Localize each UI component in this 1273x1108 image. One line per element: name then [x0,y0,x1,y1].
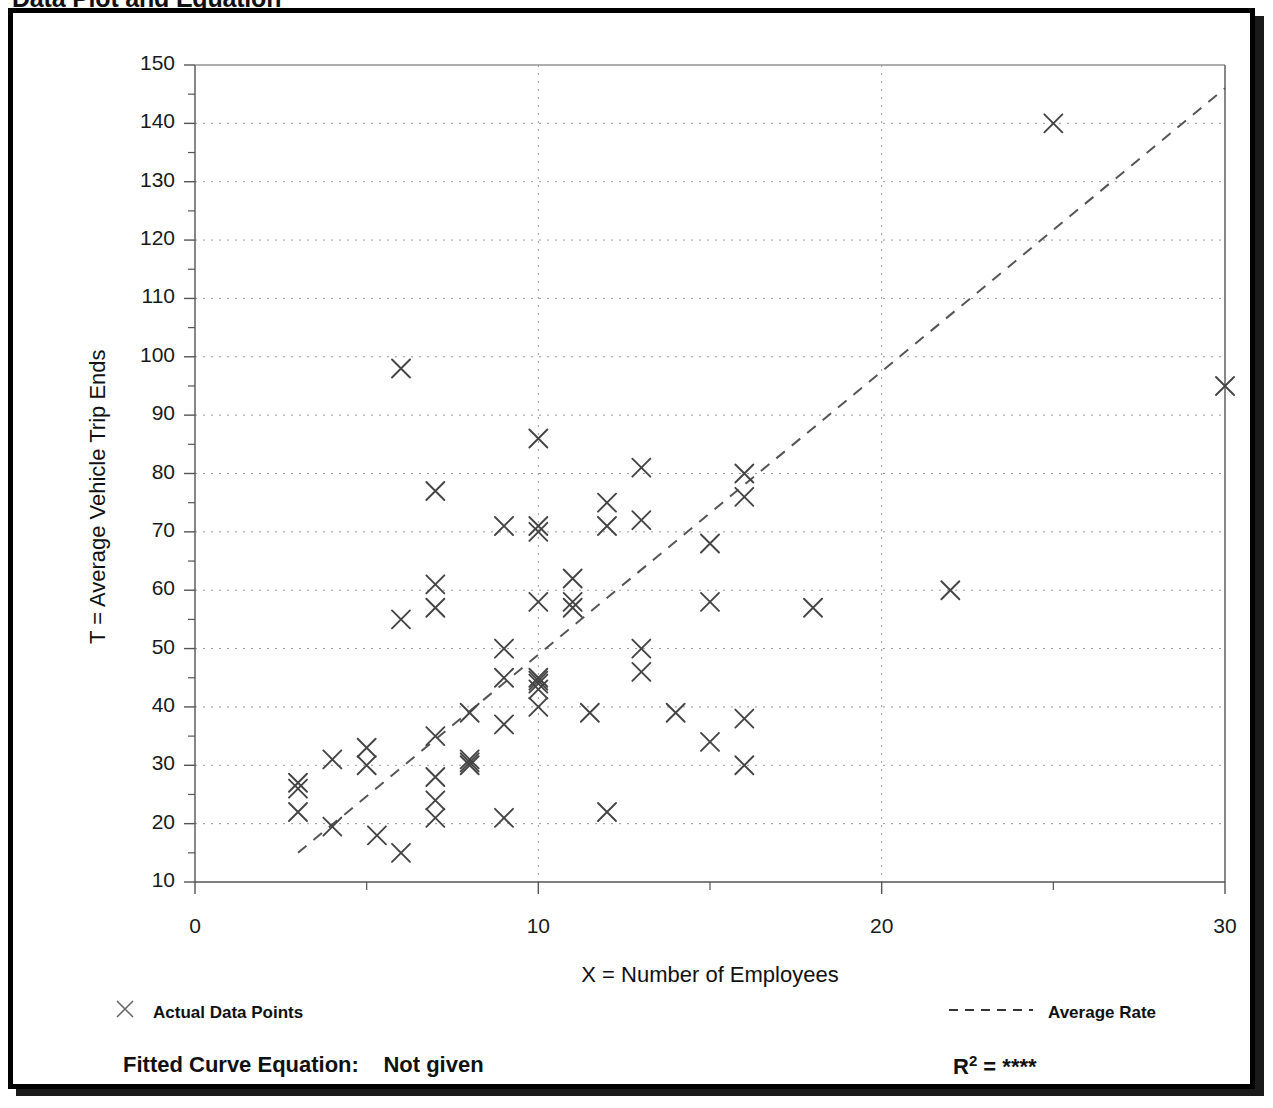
r-squared-value: R2 = **** [953,1052,1037,1080]
x-tick-label: 30 [1185,914,1265,938]
dashed-line-icon [947,997,1037,1021]
y-axis-title: T = Average Vehicle Trip Ends [85,349,111,644]
y-tick-label: 110 [105,284,175,308]
y-tick-label: 30 [105,751,175,775]
y-tick-label: 150 [105,51,175,75]
axis-lines [195,65,1225,882]
x-marker-icon [113,997,143,1021]
x-tick-label: 10 [498,914,578,938]
y-tick-label: 10 [105,868,175,892]
r-squared-label: R [953,1054,969,1079]
legend-label-average-rate: Average Rate [1048,1003,1156,1023]
y-tick-label: 50 [105,635,175,659]
x-tick-label: 0 [155,914,235,938]
y-tick-label: 80 [105,460,175,484]
y-tick-label: 140 [105,109,175,133]
x-axis-title: X = Number of Employees [195,962,1225,988]
fitted-curve-equation: Fitted Curve Equation: Not given [123,1052,484,1078]
fitted-curve-equation-value: Not given [383,1052,483,1077]
r-squared-stars: **** [1002,1054,1036,1079]
legend-label-actual-data-points: Actual Data Points [153,1003,303,1023]
y-tick-label: 60 [105,576,175,600]
figure-frame: 150140130120110100908070605040302010 010… [8,8,1255,1089]
axis-ticks [184,65,1225,894]
data-point-markers [289,114,1234,861]
x-tick-label: 20 [842,914,922,938]
y-tick-label: 40 [105,693,175,717]
y-tick-label: 130 [105,168,175,192]
r-squared-exponent: 2 [969,1052,977,1069]
grid-lines [195,65,1225,882]
y-tick-label: 120 [105,226,175,250]
r-squared-equals: = [983,1054,996,1079]
y-tick-label: 90 [105,401,175,425]
y-tick-label: 100 [105,343,175,367]
y-tick-label: 20 [105,810,175,834]
y-tick-label: 70 [105,518,175,542]
fitted-curve-equation-label: Fitted Curve Equation: [123,1052,359,1077]
